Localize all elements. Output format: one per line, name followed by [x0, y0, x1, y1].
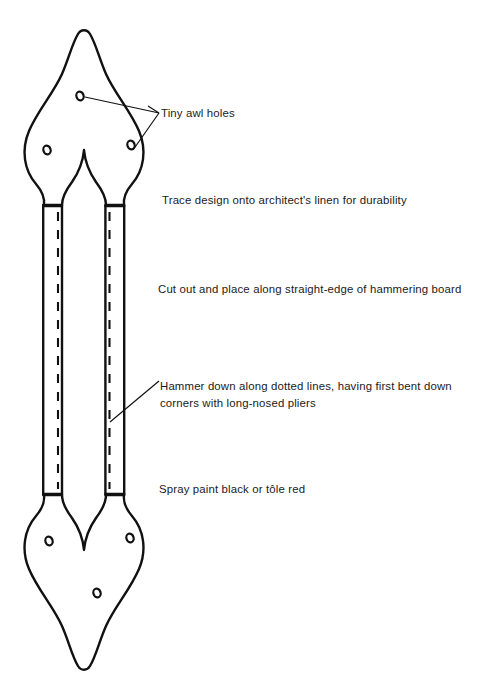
- annotation-hammer-down: Hammer down along dotted lines, having f…: [160, 378, 472, 411]
- sconce-template-figure: [0, 0, 486, 687]
- awl-hole-lower-left: [44, 536, 54, 547]
- lower-finial-outline: [25, 495, 144, 670]
- leader-line-hammer-note: [110, 381, 159, 422]
- awl-hole-lower-center: [92, 588, 102, 599]
- annotation-tiny-awl-holes: Tiny awl holes: [161, 105, 235, 122]
- awl-hole-upper-left: [42, 145, 52, 156]
- upper-finial-outline: [25, 30, 144, 205]
- leader-line-awl-upper-right: [133, 113, 159, 150]
- awl-hole-lower-right: [125, 533, 135, 544]
- awl-hole-upper-center: [75, 91, 85, 102]
- annotation-trace-design: Trace design onto architect's linen for …: [162, 192, 407, 209]
- illustration-page: Tiny awl holes Trace design onto archite…: [0, 0, 486, 687]
- annotation-spray-paint: Spray paint black or tôle red: [159, 481, 305, 498]
- annotation-cut-out: Cut out and place along straight-edge of…: [158, 281, 474, 298]
